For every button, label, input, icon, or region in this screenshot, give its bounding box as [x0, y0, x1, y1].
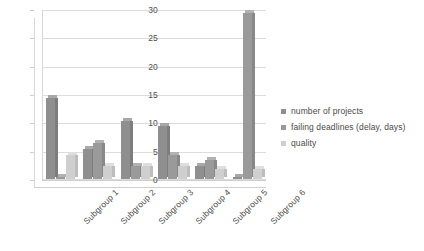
bar [66, 152, 75, 180]
bar [253, 166, 262, 180]
y-axis-tick-mark [30, 123, 34, 124]
bar [83, 146, 92, 180]
y-axis-tick-label: 5 [132, 148, 158, 157]
legend-swatch-icon [281, 141, 286, 146]
y-axis-tick-mark [30, 67, 34, 68]
bar-group [42, 10, 79, 180]
bar-group [191, 10, 228, 180]
y-axis-tick-mark [30, 38, 34, 39]
y-axis-tick-mark [30, 10, 34, 11]
x-axis-label: Subgroup 3 [157, 188, 195, 226]
bar [233, 174, 242, 180]
bar [243, 10, 252, 180]
y-axis-tick-label: 10 [132, 119, 158, 128]
bar [195, 163, 204, 180]
x-axis-labels: Subgroup 1Subgroup 2Subgroup 3Subgroup 4… [34, 188, 266, 251]
chart-legend: number of projectsfailing deadlines (del… [281, 103, 421, 151]
legend-label: quality [291, 139, 316, 148]
legend-label: number of projects [291, 107, 363, 116]
y-axis-tick-mark [30, 180, 34, 181]
bar [158, 123, 167, 180]
y-axis-tick-mark [30, 95, 34, 96]
legend-item[interactable]: failing deadlines (delay, days) [281, 119, 421, 135]
bar [121, 118, 130, 180]
x-axis-label: Subgroup 2 [119, 188, 157, 226]
bar [168, 152, 177, 180]
y-axis-tick-label: 15 [132, 91, 158, 100]
legend-swatch-icon [281, 109, 286, 114]
bar [178, 163, 187, 180]
y-axis-tick-label: 25 [132, 34, 158, 43]
bar [56, 174, 65, 180]
y-axis-tick-mark [30, 152, 34, 153]
y-axis-tick-label: 20 [132, 63, 158, 72]
legend-label: failing deadlines (delay, days) [291, 123, 405, 132]
bar-group [79, 10, 116, 180]
bar [215, 166, 224, 180]
bar [46, 95, 55, 180]
legend-item[interactable]: number of projects [281, 103, 421, 119]
y-axis-tick-label: 30 [132, 6, 158, 15]
bar [205, 157, 214, 180]
x-axis-label: Subgroup 1 [82, 188, 120, 226]
x-axis-label: Subgroup 6 [269, 188, 307, 226]
bar [93, 140, 102, 180]
bar [103, 163, 112, 180]
bar-group [229, 10, 266, 180]
legend-swatch-icon [281, 125, 286, 130]
x-axis-label: Subgroup 5 [231, 188, 269, 226]
bar-chart: 051015202530 Subgroup 1Subgroup 2Subgrou… [0, 0, 424, 251]
legend-item[interactable]: quality [281, 135, 421, 151]
x-axis-label: Subgroup 4 [194, 188, 232, 226]
y-axis-tick-label: 0 [132, 176, 158, 185]
bar-group [154, 10, 191, 180]
